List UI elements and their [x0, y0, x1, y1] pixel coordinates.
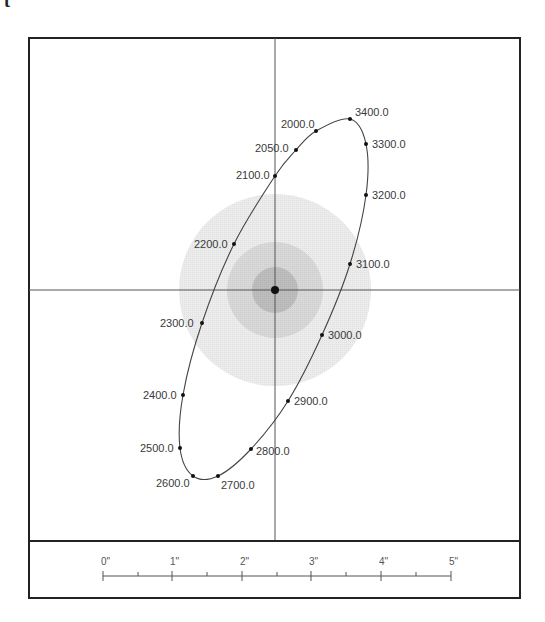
point-marker: [286, 399, 290, 403]
point-marker: [216, 474, 220, 478]
point-label: 2400.0: [143, 389, 177, 401]
point-label: 3300.0: [372, 138, 406, 150]
scale-tick-label: 3": [309, 556, 319, 567]
point-label: 2000.0: [281, 118, 315, 130]
point-marker: [348, 117, 352, 121]
plot-area: 2000.02050.02100.02200.02300.02400.02500…: [29, 38, 520, 541]
scale-bar: 0"1"2"3"4"5": [29, 541, 520, 598]
scale-tick-label: 2": [240, 556, 250, 567]
scale-tick-label: 5": [449, 556, 459, 567]
point-label: 2800.0: [256, 445, 290, 457]
point-marker: [364, 142, 368, 146]
point-marker: [273, 174, 277, 178]
point-label: 3000.0: [328, 329, 362, 341]
point-marker: [320, 333, 324, 337]
point-marker: [178, 446, 182, 450]
point-label: 2900.0: [294, 395, 328, 407]
point-label: 2700.0: [221, 479, 255, 491]
point-label: 2200.0: [194, 238, 228, 250]
point-marker: [364, 193, 368, 197]
point-label: 2100.0: [236, 169, 270, 181]
point-marker: [249, 447, 253, 451]
point-marker: [232, 242, 236, 246]
range-point: 2600.0: [156, 474, 195, 489]
point-marker: [200, 321, 204, 325]
scale-tick-label: 1": [170, 556, 180, 567]
point-label: 2300.0: [160, 317, 194, 329]
dispersion-diagram: 2000.02050.02100.02200.02300.02400.02500…: [0, 0, 545, 622]
center-point: [271, 286, 279, 294]
point-label: 2050.0: [255, 142, 289, 154]
point-label: 3200.0: [372, 189, 406, 201]
point-label: 3400.0: [355, 106, 389, 118]
point-label: 2600.0: [156, 477, 190, 489]
scale-tick-label: 0": [101, 556, 111, 567]
point-marker: [294, 148, 298, 152]
point-label: 3100.0: [356, 258, 390, 270]
range-point: 2800.0: [249, 445, 290, 457]
point-label: 2500.0: [140, 442, 174, 454]
point-marker: [348, 262, 352, 266]
scale-frame: [29, 541, 520, 598]
scale-tick-label: 4": [379, 556, 389, 567]
point-marker: [181, 393, 185, 397]
point-marker: [191, 474, 195, 478]
